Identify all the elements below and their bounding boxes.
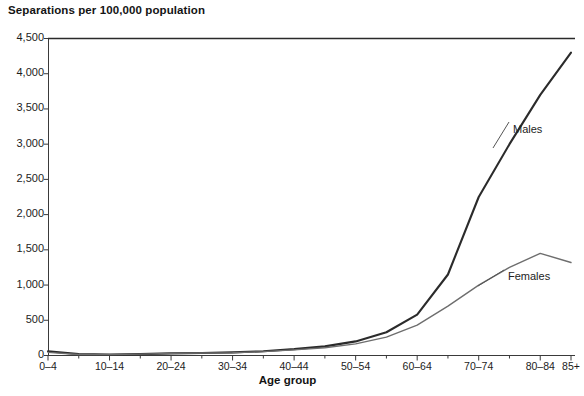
series-line-males [48, 53, 571, 355]
x-tick-label: 70–74 [449, 360, 509, 372]
series-line-females [48, 253, 571, 354]
x-tick-label: 10–14 [80, 360, 140, 372]
y-tick-label: 1,500 [0, 242, 44, 254]
y-tick-label: 0 [0, 348, 44, 360]
x-tick-label: 30–34 [203, 360, 263, 372]
series-label-males: Males [513, 123, 542, 135]
y-tick-label: 2,000 [0, 207, 44, 219]
males-leader-line [493, 122, 509, 148]
y-tick-label: 3,500 [0, 101, 44, 113]
y-tick-label: 1,000 [0, 278, 44, 290]
y-tick-label: 500 [0, 313, 44, 325]
y-tick-label: 4,000 [0, 66, 44, 78]
y-tick-label: 3,000 [0, 137, 44, 149]
series-lines [48, 53, 571, 355]
x-tick-label: 50–54 [326, 360, 386, 372]
y-tick-label: 2,500 [0, 172, 44, 184]
annotation-leader-lines [478, 122, 509, 286]
x-tick-label: 0–4 [18, 360, 78, 372]
axes-group [48, 38, 575, 356]
y-tick-label: 4,500 [0, 31, 44, 43]
x-tick-label: 60–64 [387, 360, 447, 372]
series-label-females: Females [508, 270, 550, 282]
females-leader-line [478, 270, 504, 286]
x-tick-label: 40–44 [264, 360, 324, 372]
y-tick-marks [44, 39, 48, 356]
x-axis-title: Age group [0, 374, 575, 386]
x-tick-label: 20–24 [141, 360, 201, 372]
x-tick-label: 85+ [541, 360, 584, 372]
